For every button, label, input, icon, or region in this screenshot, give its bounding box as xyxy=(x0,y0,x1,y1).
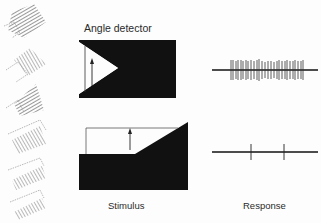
hatched-stimulus-6 xyxy=(10,190,46,220)
stimulus-preferred-angle xyxy=(79,40,176,98)
hatched-stimulus-1 xyxy=(4,4,46,38)
hatched-stimulus-5 xyxy=(8,158,46,190)
response-dense-spikes xyxy=(212,59,318,81)
stimulus-non-preferred-angle xyxy=(79,122,188,190)
stimulus-label: Stimulus xyxy=(108,200,144,211)
hatched-angle-stimuli xyxy=(0,0,321,223)
response-sparse-spikes xyxy=(212,144,318,160)
hatched-stimulus-3 xyxy=(6,84,44,116)
angle-detector-figure: Angle detector Stimulus Response xyxy=(0,0,321,223)
figure-title: Angle detector xyxy=(84,22,152,34)
response-label: Response xyxy=(243,200,286,211)
hatched-stimulus-2 xyxy=(6,48,46,82)
hatched-stimulus-4 xyxy=(8,120,46,154)
